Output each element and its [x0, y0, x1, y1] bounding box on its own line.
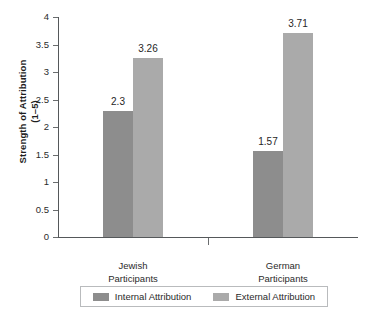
- y-axis-line: [58, 17, 59, 238]
- legend-label-external: External Attribution: [235, 291, 315, 303]
- y-axis-title: Strength of Attribution (1–5): [17, 32, 40, 192]
- y-tick-label: 2.5: [36, 93, 49, 106]
- y-tick-3.5: 3.5: [53, 45, 58, 46]
- legend-item-internal: Internal Attribution: [93, 291, 192, 303]
- bar-value-label: 3.26: [138, 43, 157, 55]
- legend-item-external: External Attribution: [213, 291, 315, 303]
- y-tick-label: 3.5: [36, 38, 49, 51]
- y-tick-1.5: 1.5: [53, 155, 58, 156]
- legend-label-internal: Internal Attribution: [115, 291, 192, 303]
- y-tick-label: 1: [44, 175, 49, 188]
- y-tick-2.5: 2.5: [53, 100, 58, 101]
- y-tick-2: 2: [53, 127, 58, 128]
- bar-chart-figure: Strength of Attribution (1–5) 00.511.522…: [0, 0, 372, 321]
- bar-value-label: 1.57: [258, 136, 277, 148]
- legend-swatch-internal-icon: [93, 293, 109, 301]
- bar-external-1: 3.71: [283, 33, 313, 237]
- y-tick-0: 0: [53, 237, 58, 238]
- category-label-1: German Participants: [233, 260, 333, 285]
- plot-area: 00.511.522.533.54 2.33.261.573.71 Jewish…: [58, 17, 358, 238]
- y-tick-label: 0: [44, 230, 49, 243]
- y-tick-label: 3: [44, 65, 49, 78]
- y-tick-1: 1: [53, 182, 58, 183]
- bar-internal-1: 1.57: [253, 151, 283, 237]
- category-separator-tick: [208, 238, 209, 245]
- y-tick-4: 4: [53, 17, 58, 18]
- y-tick-label: 0.5: [36, 203, 49, 216]
- category-label-0: Jewish Participants: [83, 260, 183, 285]
- y-tick-label: 4: [44, 10, 49, 23]
- chart-legend: Internal Attribution External Attributio…: [80, 286, 328, 307]
- bar-internal-0: 2.3: [103, 111, 133, 238]
- bar-value-label: 3.71: [288, 18, 307, 30]
- bar-value-label: 2.3: [111, 96, 125, 108]
- y-tick-0.5: 0.5: [53, 210, 58, 211]
- y-tick-label: 2: [44, 120, 49, 133]
- legend-swatch-external-icon: [213, 293, 229, 301]
- y-tick-3: 3: [53, 72, 58, 73]
- y-tick-label: 1.5: [36, 148, 49, 161]
- bar-external-0: 3.26: [133, 58, 163, 237]
